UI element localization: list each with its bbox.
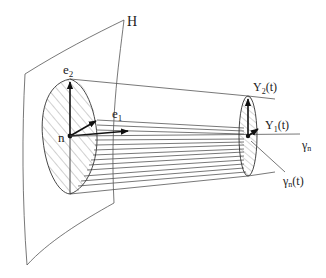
label-Y1t: Y1(t) bbox=[265, 118, 289, 134]
label-H: H bbox=[127, 14, 137, 29]
label-e2: e2 bbox=[63, 62, 73, 79]
label-e1: e1 bbox=[112, 106, 122, 123]
tube-diagram: H e2 e1 n Y2(t) Y1(t) γn γn(t) bbox=[0, 0, 326, 278]
geodesic-gamma-n bbox=[70, 134, 300, 136]
label-n: n bbox=[58, 130, 65, 145]
transported-disk bbox=[239, 96, 285, 176]
label-Y2t: Y2(t) bbox=[253, 80, 277, 96]
geodesic-point bbox=[246, 134, 250, 138]
label-gamma-n-t: γn(t) bbox=[282, 174, 304, 189]
label-gamma-n: γn bbox=[301, 138, 311, 153]
